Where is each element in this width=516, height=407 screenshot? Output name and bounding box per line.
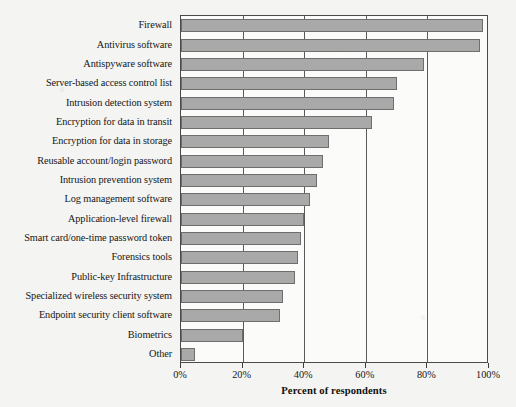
category-label: Public-key Infrastructure (71, 271, 172, 282)
bar (181, 58, 424, 71)
bar (181, 348, 195, 361)
x-tick-mark (180, 363, 181, 368)
category-label: Firewall (138, 19, 172, 30)
bar (181, 97, 394, 110)
bar (181, 251, 298, 264)
category-label: Log management software (65, 193, 173, 204)
x-tick-label: 100% (476, 369, 500, 380)
bar (181, 232, 301, 245)
bar (181, 116, 372, 129)
bar (181, 290, 283, 303)
bar (181, 39, 480, 52)
category-label: Intrusion detection system (66, 97, 172, 108)
x-tick-label: 60% (355, 369, 374, 380)
bar (181, 329, 243, 342)
category-label: Encryption for data in storage (52, 135, 172, 146)
category-label: Reusable account/login password (37, 155, 172, 166)
bar (181, 271, 295, 284)
category-label: Biometrics (128, 329, 172, 340)
category-axis-labels: FirewallAntivirus softwareAntispyware so… (0, 15, 176, 363)
category-label: Intrusion prevention system (60, 174, 172, 185)
gridline-80 (427, 16, 428, 362)
bar (181, 135, 329, 148)
category-label: Antispyware software (83, 58, 172, 69)
category-label: Forensics tools (111, 251, 172, 262)
category-label: Other (149, 348, 172, 359)
x-tick-label: 20% (232, 369, 251, 380)
category-label: Server-based access control list (46, 77, 172, 88)
bar (181, 155, 323, 168)
x-tick-label: 40% (294, 369, 313, 380)
category-label: Application-level firewall (68, 213, 172, 224)
category-label: Encryption for data in transit (56, 116, 172, 127)
x-tick-mark (488, 363, 489, 368)
bar (181, 19, 483, 32)
x-tick-mark (365, 363, 366, 368)
x-tick-mark (426, 363, 427, 368)
bar (181, 193, 310, 206)
bar (181, 309, 280, 322)
category-label: Specialized wireless security system (25, 290, 172, 301)
x-tick-mark (242, 363, 243, 368)
bar (181, 174, 317, 187)
bar-chart: FirewallAntivirus softwareAntispyware so… (0, 0, 516, 407)
category-label: Antivirus software (97, 39, 172, 50)
plot-area (180, 15, 488, 363)
category-label: Endpoint security client software (39, 309, 172, 320)
x-axis-title: Percent of respondents (180, 385, 488, 396)
category-label: Smart card/one-time password token (24, 232, 172, 243)
x-tick-label: 80% (417, 369, 436, 380)
x-tick-mark (303, 363, 304, 368)
bar (181, 213, 304, 226)
x-tick-label: 0% (173, 369, 187, 380)
bar (181, 77, 397, 90)
